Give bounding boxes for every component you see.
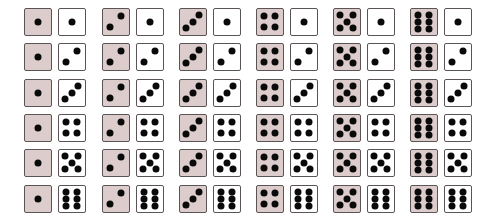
pip-icon (34, 18, 41, 25)
pip-icon (146, 159, 153, 166)
second-die-face-6 (444, 185, 472, 213)
pip-icon (415, 89, 422, 96)
second-die-face-3 (136, 79, 164, 107)
pip-icon (260, 83, 267, 90)
pip-icon (152, 118, 159, 125)
pip-icon (306, 202, 313, 209)
pip-icon (343, 89, 350, 96)
pip-icon (272, 24, 279, 31)
pip-icon (152, 83, 159, 90)
pip-icon (74, 47, 81, 54)
pip-icon (454, 159, 461, 166)
pip-icon (426, 53, 433, 60)
pip-icon (295, 195, 302, 202)
second-die-face-5 (444, 149, 472, 177)
pip-icon (229, 83, 236, 90)
second-die-face-3 (367, 79, 395, 107)
second-die-face-1 (136, 8, 164, 36)
first-die-face-2 (102, 43, 130, 71)
pip-icon (118, 189, 125, 196)
pip-icon (448, 130, 455, 137)
second-die-face-3 (444, 79, 472, 107)
pip-icon (229, 195, 236, 202)
pip-icon (218, 188, 225, 195)
second-die-face-2 (136, 43, 164, 71)
pip-icon (141, 195, 148, 202)
pip-icon (337, 59, 344, 66)
pip-icon (68, 89, 75, 96)
first-die-face-4 (256, 149, 284, 177)
pip-icon (372, 195, 379, 202)
pip-icon (34, 124, 41, 131)
second-die-face-3 (58, 79, 86, 107)
pip-icon (306, 195, 313, 202)
pip-icon (183, 59, 190, 66)
pip-icon (223, 159, 230, 166)
pip-icon (272, 189, 279, 196)
first-die-face-6 (410, 43, 438, 71)
pip-icon (454, 18, 461, 25)
pip-icon (217, 59, 224, 66)
pip-icon (260, 130, 267, 137)
pip-icon (295, 188, 302, 195)
pip-icon (426, 195, 433, 202)
first-die-face-3 (179, 8, 207, 36)
pip-icon (337, 165, 344, 172)
pip-icon (189, 53, 196, 60)
pip-icon (460, 83, 467, 90)
pip-icon (295, 202, 302, 209)
pip-icon (183, 24, 190, 31)
pip-icon (426, 60, 433, 67)
pip-icon (189, 89, 196, 96)
pip-icon (448, 118, 455, 125)
second-die-face-4 (444, 114, 472, 142)
second-die-face-5 (367, 149, 395, 177)
second-die-face-5 (136, 149, 164, 177)
pip-icon (306, 153, 313, 160)
pip-icon (377, 159, 384, 166)
pip-icon (62, 95, 69, 102)
second-die-face-2 (444, 43, 472, 71)
pip-icon (260, 165, 267, 172)
pip-icon (448, 165, 455, 172)
second-die-face-4 (58, 114, 86, 142)
pip-icon (343, 124, 350, 131)
pip-icon (62, 165, 69, 172)
pip-icon (371, 165, 378, 172)
pip-icon (460, 202, 467, 209)
pip-icon (272, 201, 279, 208)
pip-icon (272, 165, 279, 172)
pip-icon (34, 89, 41, 96)
pip-icon (229, 47, 236, 54)
pip-icon (152, 202, 159, 209)
pip-icon (426, 117, 433, 124)
pip-icon (349, 59, 356, 66)
first-die-face-6 (410, 114, 438, 142)
pip-icon (217, 118, 224, 125)
first-die-face-3 (179, 43, 207, 71)
pip-icon (349, 12, 356, 19)
pip-icon (337, 83, 344, 90)
second-die-face-4 (136, 114, 164, 142)
pip-icon (63, 188, 70, 195)
pip-icon (371, 118, 378, 125)
pip-icon (260, 118, 267, 125)
pip-icon (383, 202, 390, 209)
second-die-face-4 (367, 114, 395, 142)
pip-icon (74, 202, 81, 209)
second-die-face-3 (290, 79, 318, 107)
second-die-face-6 (367, 185, 395, 213)
pip-icon (74, 165, 81, 172)
pip-icon (141, 188, 148, 195)
pip-icon (306, 130, 313, 137)
pip-icon (106, 130, 113, 137)
first-die-face-5 (333, 8, 361, 36)
pip-icon (118, 12, 125, 19)
pip-icon (349, 24, 356, 31)
first-die-face-2 (102, 185, 130, 213)
pip-icon (415, 124, 422, 131)
pip-icon (34, 53, 41, 60)
pip-icon (415, 166, 422, 173)
pip-icon (426, 25, 433, 32)
pip-icon (349, 189, 356, 196)
